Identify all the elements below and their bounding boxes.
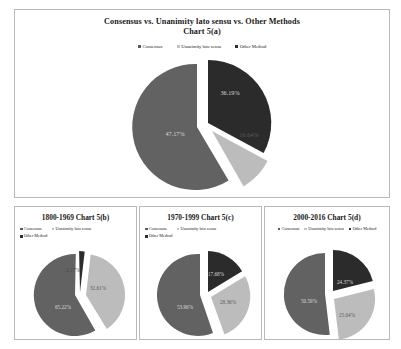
pie-slice-unanimity (86, 254, 125, 329)
legend-item-other: Other Method (235, 44, 266, 49)
chart-panel-5c: 1970-1999 Chart 5(c) Consensus Unanimity… (139, 206, 262, 340)
chart-5c-pie-svg: 17.68% 28.36% 53.96% (158, 247, 250, 335)
chart-5c-legend: Consensus Unanimity lato sensu Other Met… (145, 226, 256, 240)
chart-5b-pie: 2.17% 32.61% 65.22% (33, 247, 125, 335)
legend-label-unanimity: Unanimity lato sensu (181, 44, 221, 49)
legend-label-consensus: Consensus (282, 226, 300, 232)
legend-label-unanimity: Unanimity lato sensu (308, 226, 344, 232)
legend-item-consensus: Consensus (138, 44, 163, 49)
chart-5a-pie: 36.19% 16.64% 47.17% (133, 58, 273, 192)
legend-swatch-other-icon (349, 228, 352, 231)
legend-swatch-unanimity-icon (304, 228, 307, 231)
chart-5c-title: 1970-1999 Chart 5(c) (140, 213, 261, 222)
chart-5b-title: 1800-1969 Chart 5(b) (15, 213, 136, 222)
chart-5a-legend: Consensus Unanimity lato sensu Other Met… (15, 44, 389, 49)
chart-5a-title: Consensus vs. Unanimity lato sensu vs. O… (15, 17, 389, 36)
legend-item-unanimity: Unanimity lato sensu (52, 226, 91, 232)
legend-swatch-consensus-icon (145, 228, 148, 231)
pie-slice-other (79, 251, 85, 292)
chart-5b-legend: Consensus Unanimity lato sensu Other Met… (20, 226, 131, 240)
legend-item-other: Other Method (349, 226, 376, 232)
legend-swatch-other-icon (20, 235, 23, 238)
chart-5c-label-unanimity: 28.36% (220, 299, 237, 305)
legend-label-consensus: Consensus (24, 226, 42, 232)
legend-swatch-other-icon (145, 235, 148, 238)
chart-5d-legend: Consensus Unanimity lato sensu Other Met… (270, 226, 384, 232)
legend-item-other: Other Method (20, 233, 47, 239)
pie-slice-consensus (157, 254, 213, 336)
chart-5c-label-other: 17.68% (208, 271, 225, 277)
chart-5a-pie-svg: 36.19% 16.64% 47.17% (133, 58, 273, 192)
legend-label-other: Other Method (240, 44, 266, 49)
legend-label-other: Other Method (24, 233, 48, 239)
chart-5c-pie: 17.68% 28.36% 53.96% (158, 247, 250, 335)
legend-label-consensus: Consensus (149, 226, 167, 232)
chart-5a-label-consensus: 47.17% (165, 130, 184, 137)
chart-5a-label-other: 36.19% (220, 89, 239, 96)
chart-5b-label-unanimity: 32.61% (90, 285, 107, 291)
legend-label-unanimity: Unanimity lato sensu (180, 226, 216, 232)
chart-5d-title: 2000-2016 Chart 5(d) (265, 213, 389, 222)
legend-swatch-consensus-icon (20, 228, 23, 231)
pie-slice-consensus (284, 253, 330, 335)
legend-swatch-unanimity-icon (177, 228, 180, 231)
legend-item-consensus: Consensus (145, 226, 167, 232)
chart-5d-pie-svg: 24.37% 25.04% 50.59% (283, 247, 379, 335)
legend-label-consensus: Consensus (142, 44, 162, 49)
legend-item-unanimity: Unanimity lato sensu (177, 44, 222, 49)
legend-item-consensus: Consensus (20, 226, 42, 232)
legend-swatch-consensus-icon (278, 228, 281, 231)
legend-item-consensus: Consensus (278, 226, 300, 232)
chart-5b-label-consensus: 65.22% (55, 304, 72, 310)
chart-5b-pie-svg: 2.17% 32.61% 65.22% (33, 247, 125, 335)
chart-5b-label-other: 2.17% (66, 267, 80, 273)
legend-swatch-unanimity-icon (177, 45, 180, 48)
chart-5d-label-unanimity: 25.04% (339, 312, 356, 318)
chart-5a-label-unanimity: 16.64% (239, 131, 258, 138)
legend-item-unanimity: Unanimity lato sensu (177, 226, 216, 232)
legend-label-unanimity: Unanimity lato sensu (55, 226, 91, 232)
figure-page: Consensus vs. Unanimity lato sensu vs. O… (0, 0, 401, 349)
chart-panel-5a: Consensus vs. Unanimity lato sensu vs. O… (14, 9, 390, 198)
legend-label-other: Other Method (353, 226, 377, 232)
chart-5d-label-other: 24.37% (337, 279, 354, 285)
legend-label-other: Other Method (149, 233, 173, 239)
chart-5d-pie: 24.37% 25.04% 50.59% (283, 247, 379, 335)
chart-5a-title-line2: Chart 5(a) (15, 27, 389, 37)
chart-panel-5b: 1800-1969 Chart 5(b) Consensus Unanimity… (14, 206, 137, 340)
chart-5a-title-line1: Consensus vs. Unanimity lato sensu vs. O… (104, 17, 300, 26)
legend-item-other: Other Method (145, 233, 172, 239)
chart-panel-5d: 2000-2016 Chart 5(d) Consensus Unanimity… (264, 206, 390, 340)
legend-swatch-unanimity-icon (52, 228, 55, 231)
legend-item-unanimity: Unanimity lato sensu (304, 226, 343, 232)
chart-5c-label-consensus: 53.96% (177, 304, 194, 310)
legend-swatch-other-icon (235, 45, 238, 48)
chart-5d-label-consensus: 50.59% (301, 298, 318, 304)
legend-swatch-consensus-icon (138, 45, 141, 48)
